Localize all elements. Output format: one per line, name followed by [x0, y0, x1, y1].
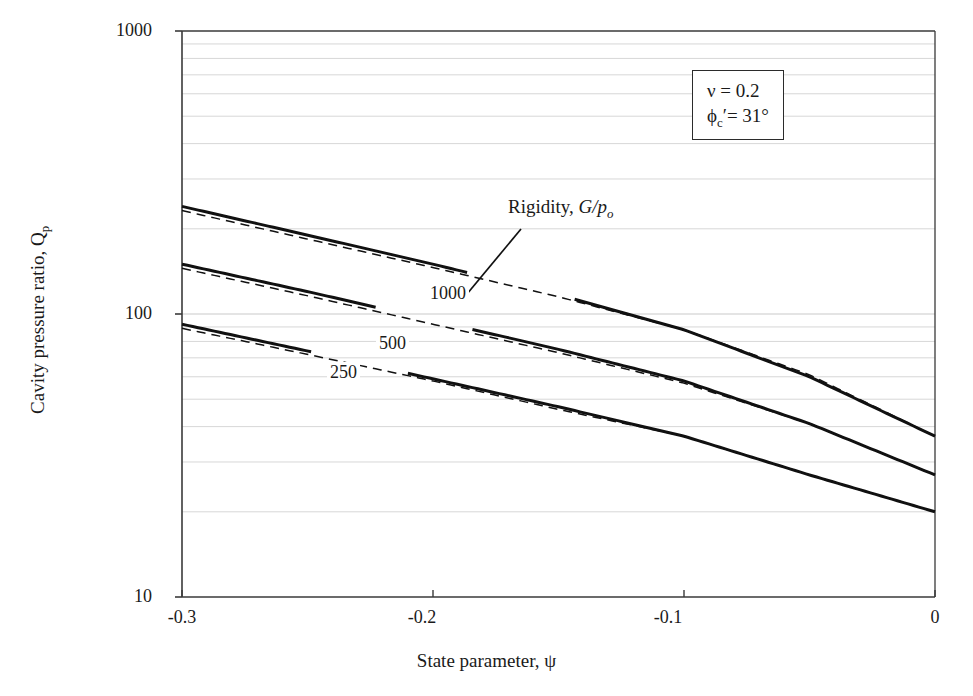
- rigidity-subscript: o: [607, 206, 613, 221]
- curve-label-500: 500: [376, 333, 409, 354]
- phi-symbol: ϕ: [707, 105, 717, 126]
- rigidity-text: Rigidity,: [508, 196, 579, 217]
- curve-label-250: 250: [327, 362, 360, 383]
- y-axis-title: Cavity pressure ratio, Qp: [27, 40, 53, 600]
- param-critical-friction-angle: ϕc′= 31°: [707, 103, 769, 131]
- data-curves-group: [182, 206, 935, 511]
- gridlines-group: [182, 44, 935, 512]
- rigidity-leader-line: [462, 229, 521, 300]
- y-tick-label-100: 100: [52, 303, 152, 324]
- y-tick-label-10: 10: [52, 586, 152, 607]
- rigidity-symbol: G/p: [579, 196, 608, 217]
- rigidity-annotation-label: Rigidity, G/po: [508, 196, 614, 222]
- param-poisson-ratio: ν = 0.2: [707, 78, 769, 103]
- y-tick-label-1000: 1000: [52, 20, 152, 41]
- x-tick-label-zero: 0: [885, 607, 973, 628]
- phi-value: = 31°: [727, 105, 769, 126]
- y-axis-title-text: Cavity pressure ratio, Q: [27, 232, 48, 414]
- curve-label-1000: 1000: [427, 283, 469, 304]
- x-tick-label-minus01: -0.1: [618, 607, 718, 628]
- x-tick-label-minus03: -0.3: [132, 607, 232, 628]
- y-axis-title-subscript: p: [37, 226, 52, 232]
- parameter-annotation-box: ν = 0.2 ϕc′= 31°: [692, 70, 784, 140]
- figure-container: State parameter, ψ Cavity pressure ratio…: [0, 0, 973, 696]
- x-axis-title: State parameter, ψ: [0, 650, 973, 672]
- x-tick-label-minus02: -0.2: [372, 607, 472, 628]
